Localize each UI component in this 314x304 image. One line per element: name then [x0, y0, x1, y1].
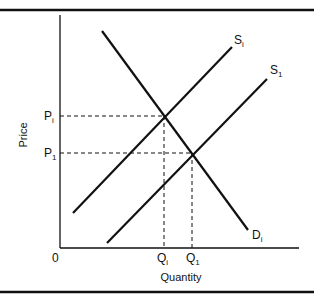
x-axis-title: Quantity: [161, 271, 202, 283]
supply-initial-curve: [73, 47, 232, 213]
origin-label: 0: [52, 251, 59, 265]
y-axis-title: Price: [17, 122, 29, 147]
quantity-initial-label: Qi: [157, 251, 168, 267]
demand-curve: [102, 31, 248, 230]
demand-label: Di: [252, 228, 263, 244]
quantity-new-label: Q1: [186, 251, 200, 267]
supply-new-label: S1: [270, 63, 283, 79]
price-initial-label: Pi: [44, 109, 54, 125]
supply-new-curve: [107, 79, 267, 243]
supply-initial-label: Si: [234, 33, 244, 49]
price-new-label: P1: [44, 146, 57, 162]
supply-demand-diagram: Si S1 Di Pi P1 Qi Q1 0 Quantity Price: [0, 0, 314, 304]
